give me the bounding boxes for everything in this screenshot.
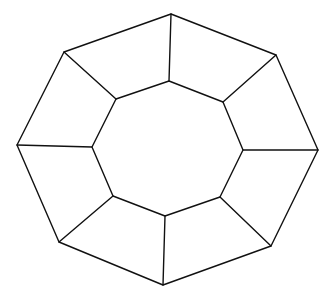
inner-octagon xyxy=(92,81,243,216)
spoke-edge xyxy=(59,196,113,242)
spoke-edge xyxy=(223,55,276,102)
octagon-ring-diagram xyxy=(0,0,333,298)
spoke-edge xyxy=(220,197,271,246)
spoke-edge xyxy=(64,52,116,99)
spoke-edge xyxy=(17,145,92,147)
spoke-edge xyxy=(169,14,171,81)
spoke-edge xyxy=(163,216,165,285)
